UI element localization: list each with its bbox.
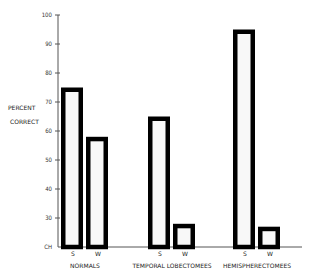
bar-hemispherectomees-s [235,32,253,247]
y-ticks: 10090807060504030CH [42,11,60,250]
bar-normals-w [88,139,106,247]
y-tick-label: 80 [45,69,52,76]
y-tick-label: 90 [45,40,52,47]
bar-normals-s [63,90,81,247]
y-tick-label: 40 [45,185,52,192]
bar-temporal-lobectomees-s [150,119,168,247]
group-label: NORMALS [70,262,100,269]
group-label: HEMISPHERECTOMEES [223,262,291,269]
y-tick-label: 70 [45,98,52,105]
y-axis-title-line2: CORRECT [10,118,39,125]
y-tick-label: 100 [42,11,53,18]
y-axis-title-line1: PERCENT [8,104,36,111]
bar-chart: 10090807060504030CH PERCENT CORRECT SWNO… [0,0,311,278]
bar-label: S [243,250,247,257]
bar-label: W [267,250,273,257]
bar-hemispherectomees-w [260,229,278,247]
bar-label: S [158,250,162,257]
x-labels: SWNORMALSSWTEMPORAL LOBECTOMEESSWHEMISPH… [70,250,291,269]
y-tick-label: 30 [45,214,52,221]
bar-label: W [95,250,101,257]
y-tick-label: 60 [45,127,52,134]
bar-label: S [71,250,75,257]
group-label: TEMPORAL LOBECTOMEES [131,262,211,269]
bar-label: W [182,250,188,257]
y-tick-label: CH [44,243,52,250]
bar-temporal-lobectomees-w [175,226,193,247]
y-tick-label: 50 [45,156,52,163]
bars [63,32,278,247]
